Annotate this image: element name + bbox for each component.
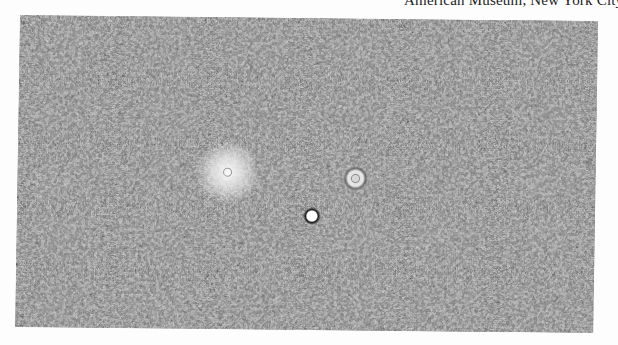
scanned-page: American Museum, New York City bbox=[0, 0, 618, 345]
micrograph-texture bbox=[15, 15, 598, 333]
micrograph-photo bbox=[15, 15, 598, 333]
photo-credit-caption: American Museum, New York City bbox=[404, 0, 618, 9]
film-grain bbox=[15, 15, 598, 333]
